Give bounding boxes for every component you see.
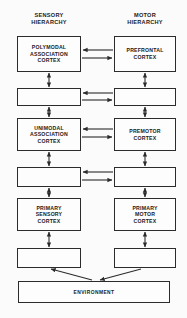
hierarchy-diagram: SENSORY HIERARCHY MOTOR HIERARCHY POLYMO… <box>0 0 187 318</box>
arrow-environment-to-sensory <box>51 269 92 280</box>
node-primary-motor-cortex: PRIMARY MOTOR CORTEX <box>114 198 176 231</box>
node-motor-relay-3 <box>114 248 176 268</box>
node-motor-relay-2 <box>114 167 176 187</box>
node-premotor-cortex: PREMOTOR CORTEX <box>114 118 176 151</box>
node-sensory-relay-2 <box>17 167 81 187</box>
node-label: PRIMARY SENSORY CORTEX <box>35 205 64 225</box>
node-label: UNIMODAL ASSOCIATION CORTEX <box>29 125 69 145</box>
node-primary-sensory-cortex: PRIMARY SENSORY CORTEX <box>17 198 81 231</box>
node-prefrontal-cortex: PREFRONTAL CORTEX <box>114 36 176 72</box>
column-header-sensory: SENSORY HIERARCHY <box>17 12 81 26</box>
node-environment: ENVIRONMENT <box>18 281 170 303</box>
node-unimodal-association-cortex: UNIMODAL ASSOCIATION CORTEX <box>17 118 81 151</box>
node-label: PRIMARY MOTOR CORTEX <box>131 205 158 225</box>
environment-label: ENVIRONMENT <box>73 290 114 295</box>
node-motor-relay-1 <box>114 88 176 106</box>
node-sensory-relay-3 <box>17 248 81 268</box>
node-sensory-relay-1 <box>17 88 81 106</box>
node-label: POLYMODAL ASSOCIATION CORTEX <box>29 44 69 64</box>
column-header-motor: MOTOR HIERARCHY <box>114 12 176 26</box>
node-polymodal-association-cortex: POLYMODAL ASSOCIATION CORTEX <box>17 36 81 72</box>
arrow-motor-to-environment <box>100 269 141 280</box>
node-label: PREFRONTAL CORTEX <box>125 47 164 60</box>
node-label: PREMOTOR CORTEX <box>128 128 161 141</box>
